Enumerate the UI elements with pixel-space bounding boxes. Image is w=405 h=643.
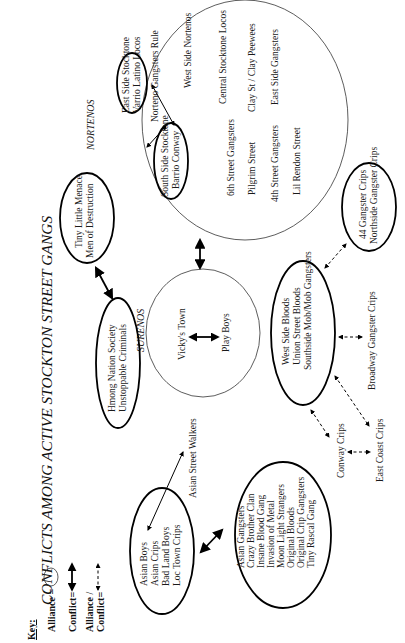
svg-text:Unstoppable Criminals: Unstoppable Criminals	[118, 324, 128, 412]
svg-text:Original Crip Gangsters: Original Crip Gangsters	[296, 476, 306, 568]
svg-text:Union Street Bloods: Union Street Bloods	[292, 287, 302, 365]
svg-text:44 Gangster Crips: 44 Gangster Crips	[358, 170, 368, 239]
svg-text:Broadway Gangster Crips: Broadway Gangster Crips	[367, 291, 377, 390]
broadway-gangster-crips-text: Broadway Gangster Crips	[367, 291, 377, 390]
svg-text:Hmong Nation Society: Hmong Nation Society	[107, 324, 117, 412]
key-conflict-label: Conflict=	[67, 592, 78, 632]
east-coast-crips-text: East Coast Crips	[375, 418, 385, 482]
title: CONFLICTS AMONG ACTIVE STOCKTON STREET G…	[38, 216, 55, 605]
svg-text:Play Boys: Play Boys	[221, 313, 231, 352]
nortenos-gang-clay-st: Clay St / Clay Peewees	[247, 23, 257, 112]
nortenos-gang-west-side: West Side Nortenos	[183, 12, 193, 88]
svg-text:West Side Nortenos: West Side Nortenos	[183, 12, 193, 88]
conflict-arrow-asianboys-asiangangsters	[201, 530, 222, 552]
svg-text:Asian Gangsters: Asian Gangsters	[236, 505, 246, 568]
svg-text:4th Street Gangsters: 4th Street Gangsters	[270, 125, 280, 202]
svg-text:Asian Street Walkers: Asian Street Walkers	[188, 418, 198, 498]
conway-crips-text: Conway Crips	[336, 423, 346, 478]
svg-text:Lil Rendon Street: Lil Rendon Street	[292, 127, 302, 195]
key-heading: Key:	[26, 619, 37, 640]
nortenos-gang-ngr: Norteno Gangsters Rule	[150, 30, 160, 122]
svg-text:Clay St / Clay Peewees: Clay St / Clay Peewees	[247, 23, 257, 112]
svg-text:Conflict=: Conflict=	[67, 592, 78, 632]
nortenos-gang-pilgrim: Pilgrim Street	[247, 142, 257, 195]
svg-text:Loc Town Crips: Loc Town Crips	[172, 524, 182, 586]
nortenos-gang-central-stocktone: Central Stocktone Locos	[218, 10, 228, 104]
svg-text:Tiny Little Menace: Tiny Little Menace	[74, 175, 84, 248]
svg-text:Alliance /: Alliance /	[84, 592, 95, 632]
gang-conflict-diagram: CONFLICTS AMONG ACTIVE STOCKTON STREET G…	[0, 0, 405, 643]
svg-text:Asian Boys: Asian Boys	[139, 542, 149, 586]
svg-text:Crazy Brother Clan: Crazy Brother Clan	[246, 493, 256, 568]
svg-text:Varrio Latino Locos: Varrio Latino Locos	[132, 36, 142, 113]
nortenos-gang-east-side-gangsters: East Side Gangsters	[270, 29, 280, 105]
key-alliance-conflict-label: Alliance /	[84, 592, 95, 632]
svg-text:Original Bloods: Original Bloods	[286, 507, 296, 568]
svg-text:Vicky's Town: Vicky's Town	[177, 308, 187, 360]
svg-text:CONFLICTS AMONG ACTIVE STOCKTO: CONFLICTS AMONG ACTIVE STOCKTON STREET G…	[38, 216, 55, 605]
svg-text:6th Street Gangsters: 6th Street Gangsters	[226, 119, 236, 196]
nortenos-gang-lil-rendon: Lil Rendon Street	[292, 127, 302, 195]
svg-text:Bad Land Boys: Bad Land Boys	[161, 527, 171, 586]
svg-text:Conflict=: Conflict=	[95, 592, 106, 632]
svg-text:Insane Blood Gang: Insane Blood Gang	[256, 494, 266, 568]
svg-text:NORTENOS: NORTENOS	[85, 99, 96, 151]
south-side-stocktone-text: South Side Stocktone Barrio Conway	[160, 115, 181, 197]
svg-text:West Side Bloods: West Side Bloods	[281, 297, 291, 365]
svg-text:Pilgrim Street: Pilgrim Street	[247, 142, 257, 195]
svg-text:Alliance =: Alliance =	[46, 589, 57, 632]
nortenos-gang-4th-street: 4th Street Gangsters	[270, 125, 280, 202]
surenos-gang-vickys-town: Vicky's Town	[177, 308, 187, 360]
conflict-arrow-tlm-hmong	[96, 268, 112, 298]
surenos-gang-play-boys: Play Boys	[221, 313, 231, 352]
svg-text:Southside Mob/Mob Gangsters: Southside Mob/Mob Gangsters	[303, 251, 313, 370]
svg-text:Northside Gangster Crips: Northside Gangster Crips	[369, 147, 379, 244]
nortenos-label: NORTENOS	[85, 99, 96, 151]
svg-text:Tiny Rascal Gang: Tiny Rascal Gang	[306, 499, 316, 568]
tiny-little-menace-text: Tiny Little Menace Men of Destruction	[74, 175, 95, 258]
nortenos-gang-6th-street: 6th Street Gangsters	[226, 119, 236, 196]
key-alliance-label: Alliance =	[46, 589, 57, 632]
asian-street-walkers-text: Asian Street Walkers	[188, 418, 198, 498]
svg-text:East Side Gangsters: East Side Gangsters	[270, 29, 280, 105]
svg-text:Norteno Gangsters Rule: Norteno Gangsters Rule	[150, 30, 160, 122]
svg-text:Barrio Conway: Barrio Conway	[171, 130, 181, 189]
dashed-arrow-bloods-44crips	[325, 244, 346, 268]
key-alliance-conflict-label-2: Conflict=	[95, 592, 106, 632]
west-side-bloods-text: West Side Bloods Union Street Bloods Sou…	[281, 251, 313, 370]
svg-text:Asian Crips: Asian Crips	[150, 541, 160, 586]
asian-boys-text: Asian Boys Asian Crips Bad Land Boys Loc…	[139, 524, 182, 586]
svg-text:Men of Destruction: Men of Destruction	[85, 183, 95, 258]
svg-text:Conway Crips: Conway Crips	[336, 423, 346, 478]
svg-text:East Coast Crips: East Coast Crips	[375, 418, 385, 482]
asian-gangsters-text: Asian Gangsters Crazy Brother Clan Insan…	[236, 476, 316, 568]
dashed-arrow-bloods-conway	[311, 410, 329, 437]
svg-text:Key:: Key:	[26, 619, 37, 640]
44-gangster-crips-text: 44 Gangster Crips Northside Gangster Cri…	[358, 147, 379, 244]
dashed-arrow-bloods-eastcoast	[335, 376, 369, 426]
svg-text:Invasion of Metal: Invasion of Metal	[266, 500, 276, 568]
svg-text:Moon Light Strangers: Moon Light Strangers	[276, 484, 286, 568]
svg-text:Central Stocktone Locos: Central Stocktone Locos	[218, 10, 228, 104]
nortenos-circle	[142, 0, 348, 240]
svg-text:East Side Stocktone: East Side Stocktone	[121, 37, 131, 113]
east-side-stocktone-text: East Side Stocktone Varrio Latino Locos	[121, 36, 142, 113]
hmong-nation-text: Hmong Nation Society Unstoppable Crimina…	[107, 324, 128, 412]
surenos-circle	[146, 269, 260, 397]
